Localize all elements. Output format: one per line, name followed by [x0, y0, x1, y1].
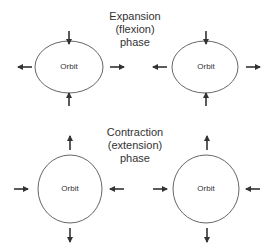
label-line: (flexion) [90, 23, 180, 36]
orbit-label: Orbit [49, 62, 89, 72]
label-line: Contraction [90, 126, 180, 139]
orbit-label: Orbit [50, 184, 90, 194]
label-line: (extension) [90, 139, 180, 152]
label-line: Expansion [90, 10, 180, 23]
orbit-label: Orbit [186, 62, 226, 72]
label-line: phase [90, 152, 180, 165]
contraction-phase-label: Contraction (extension) phase [90, 126, 180, 165]
expansion-phase-label: Expansion (flexion) phase [90, 10, 180, 49]
orbit-label: Orbit [186, 184, 226, 194]
label-line: phase [90, 36, 180, 49]
